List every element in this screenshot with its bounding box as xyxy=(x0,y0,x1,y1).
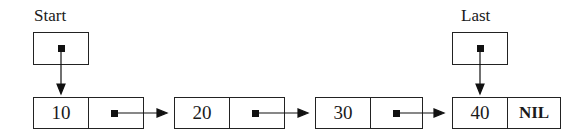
arrowhead-icon xyxy=(434,109,444,117)
arrows xyxy=(0,0,586,139)
arrowhead-icon xyxy=(298,109,308,117)
arrowhead-icon xyxy=(157,109,167,117)
arrowhead-icon xyxy=(476,84,484,94)
arrowhead-icon xyxy=(57,84,65,94)
